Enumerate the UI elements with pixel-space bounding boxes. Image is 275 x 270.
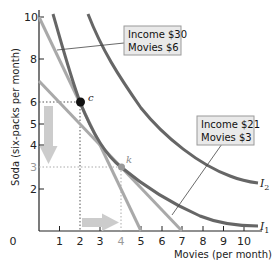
box1-line1: Income $30 <box>128 29 187 40</box>
box2-connector <box>172 144 222 215</box>
box1-line2: Movies $6 <box>128 42 179 53</box>
svg-text:10: 10 <box>24 11 38 24</box>
svg-text:8: 8 <box>30 53 37 66</box>
down-arrow <box>40 106 58 164</box>
point-k-label: k <box>126 154 132 165</box>
svg-text:4: 4 <box>30 139 37 152</box>
i2-label: I2 <box>259 177 269 192</box>
svg-text:7: 7 <box>179 235 186 248</box>
chart: c k Income $30 Movies $6 Income $21 Movi… <box>0 0 275 270</box>
annotation-box-income-30: Income $30 Movies $6 <box>124 26 187 55</box>
y-tick-labels: 10 8 6 5 4 3 2 <box>24 11 38 196</box>
svg-text:0: 0 <box>10 235 17 248</box>
point-k <box>118 164 125 171</box>
i1-label: I1 <box>259 220 269 235</box>
svg-text:5: 5 <box>30 118 37 131</box>
svg-text:6: 6 <box>159 235 166 248</box>
point-c <box>76 98 85 107</box>
annotation-box-income-21: Income $21 Movies $3 <box>197 116 260 145</box>
svg-text:6: 6 <box>30 96 37 109</box>
svg-text:4: 4 <box>118 235 125 248</box>
box2-line2: Movies $3 <box>201 132 252 143</box>
svg-text:8: 8 <box>200 235 207 248</box>
x-axis-title: Movies (per month) <box>174 249 272 260</box>
svg-text:3: 3 <box>30 161 37 174</box>
svg-text:9: 9 <box>220 235 227 248</box>
svg-text:2: 2 <box>77 235 84 248</box>
svg-text:10: 10 <box>237 235 251 248</box>
y-axis-title: Soda (six-packs per month) <box>10 48 21 186</box>
svg-text:2: 2 <box>30 183 37 196</box>
x-tick-labels: 0 1 2 3 4 5 6 7 8 9 10 <box>10 235 252 248</box>
box2-line1: Income $21 <box>201 119 260 130</box>
point-c-label: c <box>88 92 94 103</box>
svg-text:5: 5 <box>138 235 145 248</box>
svg-text:3: 3 <box>97 235 104 248</box>
box1-connector <box>57 43 124 50</box>
y-ticks <box>39 17 44 189</box>
svg-text:1: 1 <box>56 235 63 248</box>
